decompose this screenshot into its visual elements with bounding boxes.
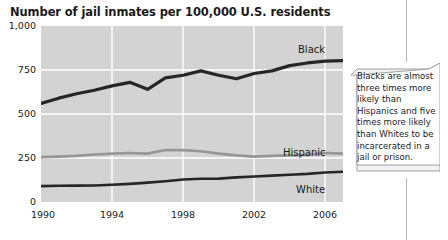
series-label-hispanic: Hispanic [283, 147, 326, 158]
page-rule-top [406, 0, 407, 62]
chart-figure: Number of jail inmates per 100,000 U.S. … [0, 0, 448, 240]
y-tick-250: 250 [0, 153, 36, 163]
y-tick-750: 750 [0, 65, 36, 75]
chart-title: Number of jail inmates per 100,000 U.S. … [10, 5, 330, 19]
horizontal-gridlines [41, 70, 343, 158]
series-line-black [41, 61, 343, 104]
x-tick-1994: 1994 [100, 209, 124, 220]
page-rule-bottom [406, 178, 407, 240]
x-tick-1990: 1990 [31, 209, 55, 220]
x-tick-2006: 2006 [313, 209, 337, 220]
callout-text: Blacks are almost three times more likel… [357, 71, 437, 164]
y-tick-0: 0 [0, 197, 36, 207]
series-label-white: White [296, 184, 325, 195]
y-tick-1000: 1,000 [0, 21, 36, 31]
y-tick-500: 500 [0, 109, 36, 119]
series-label-black: Black [298, 44, 325, 55]
x-tick-2002: 2002 [242, 209, 266, 220]
x-tick-1998: 1998 [171, 209, 195, 220]
